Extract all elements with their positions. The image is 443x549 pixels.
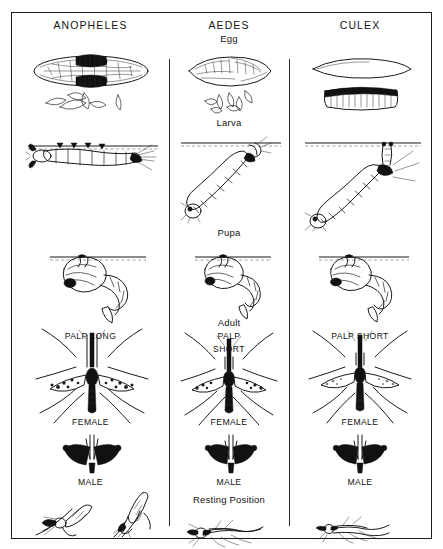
stage-label-larva: Larva	[169, 117, 289, 128]
culex-adult-male-illustration	[331, 433, 389, 481]
culex-resting-position-illustration	[315, 509, 405, 547]
culex-adult-female-illustration	[307, 327, 413, 429]
stage-label-pupa: Pupa	[169, 227, 289, 238]
mosquito-comparison-chart: ANOPHELES	[11, 12, 432, 539]
aedes-adult-male-illustration	[203, 433, 259, 481]
anopheles-larva-illustration	[26, 137, 160, 185]
stage-label-egg: Egg	[169, 33, 289, 44]
aedes-egg-illustration	[185, 51, 275, 119]
column-aedes: AEDES Egg	[169, 13, 289, 538]
column-header-culex: CULEX	[289, 19, 431, 31]
anopheles-male-label: MALE	[12, 477, 169, 487]
culex-egg-illustration	[307, 55, 419, 117]
anopheles-pupa-illustration	[50, 249, 146, 325]
aedes-male-label: MALE	[169, 477, 289, 487]
culex-male-label: MALE	[289, 477, 431, 487]
anopheles-adult-female-illustration	[34, 327, 150, 431]
aedes-resting-position-illustration	[185, 511, 277, 549]
column-anopheles: ANOPHELES	[12, 13, 169, 538]
anopheles-resting-position-illustration	[26, 491, 166, 539]
anopheles-adult-male-illustration	[60, 433, 124, 481]
aedes-adult-female-illustration	[179, 331, 279, 431]
aedes-female-label: FEMALE	[169, 417, 289, 427]
anopheles-female-label: FEMALE	[12, 417, 169, 427]
culex-larva-illustration	[305, 135, 421, 231]
stage-label-resting-position: Resting Position	[169, 494, 289, 505]
culex-pupa-illustration	[319, 249, 409, 323]
column-header-anopheles: ANOPHELES	[12, 19, 169, 31]
aedes-larva-illustration	[181, 135, 281, 223]
anopheles-egg-illustration	[30, 45, 152, 115]
column-header-aedes: AEDES	[169, 19, 289, 31]
column-culex: CULEX	[289, 13, 431, 538]
stage-label-adult: Adult	[169, 317, 289, 328]
aedes-pupa-illustration	[195, 249, 271, 321]
culex-female-label: FEMALE	[289, 417, 431, 427]
